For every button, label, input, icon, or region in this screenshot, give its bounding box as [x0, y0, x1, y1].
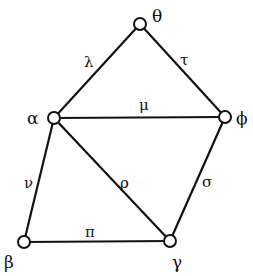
edge-sigma [170, 117, 225, 241]
node-gamma [164, 235, 176, 247]
edge-label-tau: τ [180, 51, 188, 69]
graph-diagram: θ α ϕ β γ λ τ μ ν ρ σ π [0, 0, 253, 276]
node-phi [219, 111, 231, 123]
node-theta [134, 18, 146, 30]
edge-label-nu: ν [24, 174, 33, 192]
edge-mu [54, 117, 225, 118]
edge-label-rho: ρ [120, 174, 129, 192]
edge-lambda [54, 24, 140, 118]
node-label-theta: θ [152, 6, 162, 26]
edge-label-pi: π [85, 223, 95, 241]
edge-label-mu: μ [139, 96, 149, 114]
node-label-beta: β [4, 252, 14, 272]
edge-label-lambda: λ [84, 53, 94, 71]
edge-tau [140, 24, 225, 117]
edge-pi [24, 241, 170, 242]
node-label-phi: ϕ [236, 108, 248, 128]
node-alpha [48, 112, 60, 124]
edge-label-sigma: σ [202, 173, 212, 191]
node-beta [18, 236, 30, 248]
edge-rho [54, 118, 170, 241]
node-label-gamma: γ [172, 252, 182, 272]
node-label-alpha: α [27, 108, 39, 128]
